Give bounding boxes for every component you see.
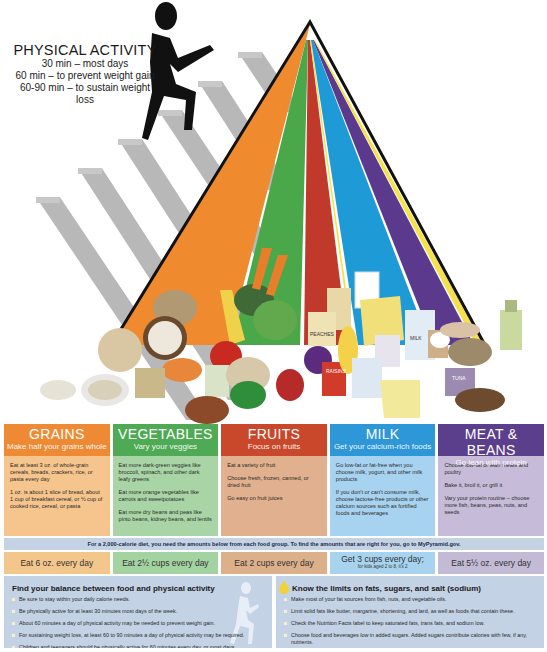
- panel-title: Find your balance between food and physi…: [12, 584, 264, 593]
- svg-text:MILK: MILK: [410, 335, 422, 341]
- group-subtitle: Vary your veggies: [113, 442, 219, 452]
- panel-limits: Know the limits on fats, sugars, and sal…: [276, 576, 544, 648]
- group-subtitle: Go lean with protein: [438, 458, 544, 468]
- amount-grains: Eat 6 oz. every day: [4, 552, 110, 574]
- amount-milk-note: for kids aged 2 to 8, it's 2: [330, 564, 436, 570]
- guidance-panels: Find your balance between food and physi…: [4, 576, 544, 648]
- physical-activity-heading: PHYSICAL ACTIVITY 30 min – most days 60 …: [10, 42, 160, 106]
- list-item: Be sure to stay within your daily calori…: [12, 596, 264, 603]
- group-milk: MILK Get your calcium-rich foods Go low-…: [330, 424, 436, 536]
- list-item: For sustaining weight loss, at least 60 …: [12, 632, 264, 639]
- tip: Eat a variety of fruit: [227, 462, 321, 469]
- panel-list: Be sure to stay within your daily calori…: [12, 596, 264, 648]
- tip: Eat more dark-green veggies like broccol…: [119, 462, 213, 483]
- list-item: Be physically active for at least 30 min…: [12, 608, 264, 615]
- group-tips: Eat a variety of fruit Choose fresh, fro…: [221, 456, 327, 536]
- list-item: About 60 minutes a day of physical activ…: [12, 620, 264, 627]
- amount-fruits: Eat 2 cups every day: [221, 552, 327, 574]
- amount-milk-main: Get 3 cups every day;: [341, 554, 424, 564]
- tip: Bake it, broil it, or grill it: [444, 482, 538, 489]
- list-item: Choose food and beverages low in added s…: [284, 632, 536, 647]
- amount-meat-beans: Eat 5½ oz. every day: [438, 552, 544, 574]
- group-fruits: FRUITS Focus on fruits Eat a variety of …: [221, 424, 327, 536]
- svg-text:TUNA: TUNA: [452, 375, 466, 381]
- tip: Go low-fat or fat-free when you choose m…: [336, 462, 430, 483]
- group-header: GRAINS Make half your grains whole: [4, 424, 110, 456]
- physical-activity-line: 30 min – most days: [10, 58, 160, 70]
- group-subtitle: Make half your grains whole: [4, 442, 110, 452]
- amount-vegetables: Eat 2½ cups every day: [113, 552, 219, 574]
- group-name: FRUITS: [221, 426, 327, 442]
- list-item: Check the Nutrition Facts label to keep …: [284, 620, 536, 627]
- group-header: MILK Get your calcium-rich foods: [330, 424, 436, 456]
- group-header: FRUITS Focus on fruits: [221, 424, 327, 456]
- calorie-banner: For a 2,000-calorie diet, you need the a…: [4, 538, 544, 550]
- amount-milk: Get 3 cups every day; for kids aged 2 to…: [330, 552, 436, 574]
- group-tips: Go low-fat or fat-free when you choose m…: [330, 456, 436, 536]
- group-meat-beans: MEAT & BEANS Go lean with protein Choose…: [438, 424, 544, 536]
- group-grains: GRAINS Make half your grains whole Eat a…: [4, 424, 110, 536]
- panel-balance: Find your balance between food and physi…: [4, 576, 272, 648]
- physical-activity-line: 60-90 min – to sustain weight loss: [10, 82, 160, 106]
- panel-title: Know the limits on fats, sugars, and sal…: [284, 584, 536, 593]
- group-name: GRAINS: [4, 426, 110, 442]
- physical-activity-title: PHYSICAL ACTIVITY: [10, 42, 160, 58]
- tip: Vary your protein routine – choose more …: [444, 495, 538, 516]
- group-name: MILK: [330, 426, 436, 442]
- tip: Eat more dry beans and peas like pinto b…: [119, 509, 213, 523]
- tip: 1 oz. is about 1 slice of bread, about 1…: [10, 489, 104, 510]
- physical-activity-line: 60 min – to prevent weight gain: [10, 70, 160, 82]
- tip: Eat more orange vegetables like carrots …: [119, 489, 213, 503]
- group-name: VEGETABLES: [113, 426, 219, 442]
- group-tips: Eat at least 3 oz. of whole-grain cereal…: [4, 456, 110, 536]
- list-item: Make most of your fat sources from fish,…: [284, 596, 536, 603]
- group-header: MEAT & BEANS Go lean with protein: [438, 424, 544, 456]
- group-tips: Eat more dark-green veggies like broccol…: [113, 456, 219, 536]
- tip: Eat at least 3 oz. of whole-grain cereal…: [10, 462, 104, 483]
- group-vegetables: VEGETABLES Vary your veggies Eat more da…: [113, 424, 219, 536]
- tip: Choose fresh, frozen, canned, or dried f…: [227, 475, 321, 489]
- tip: Go easy on fruit juices: [227, 495, 321, 502]
- svg-text:RAISINS: RAISINS: [326, 368, 347, 374]
- list-item: Limit solid fats like butter, margarine,…: [284, 608, 536, 615]
- food-group-columns: GRAINS Make half your grains whole Eat a…: [4, 424, 544, 536]
- list-item: Children and teenagers should be physica…: [12, 644, 264, 648]
- daily-amounts-row: Eat 6 oz. every day Eat 2½ cups every da…: [4, 552, 544, 574]
- group-subtitle: Focus on fruits: [221, 442, 327, 452]
- group-subtitle: Get your calcium-rich foods: [330, 442, 436, 452]
- svg-text:PEACHES: PEACHES: [310, 331, 335, 337]
- group-tips: Choose low-fat or lean meats and poultry…: [438, 456, 544, 536]
- panel-list: Make most of your fat sources from fish,…: [284, 596, 536, 647]
- group-header: VEGETABLES Vary your veggies: [113, 424, 219, 456]
- tip: If you don't or can't consume milk, choo…: [336, 489, 430, 517]
- group-name: MEAT & BEANS: [438, 426, 544, 458]
